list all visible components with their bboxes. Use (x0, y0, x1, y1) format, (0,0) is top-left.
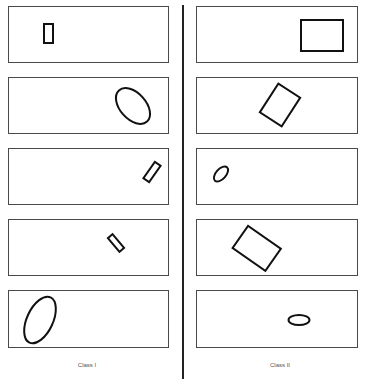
class-1-panel-1 (9, 7, 169, 63)
class-2-label: Class II (270, 362, 290, 368)
class-2-panel-3 (197, 149, 358, 205)
class-1-label: Class I (78, 362, 96, 368)
class-1-panel-2 (9, 78, 169, 134)
class-2-panel-2 (197, 78, 358, 134)
class-2-panel-4 (197, 220, 358, 276)
class-1-panel-3 (9, 149, 169, 205)
class-1-panel-4 (9, 220, 169, 276)
class-2-column (197, 7, 358, 348)
class-2-panel-1 (197, 7, 358, 63)
bongard-problem-figure (0, 0, 367, 384)
class-2-panel-5 (197, 291, 358, 348)
class-1-panel-5 (9, 291, 169, 349)
class-1-column (9, 7, 169, 349)
